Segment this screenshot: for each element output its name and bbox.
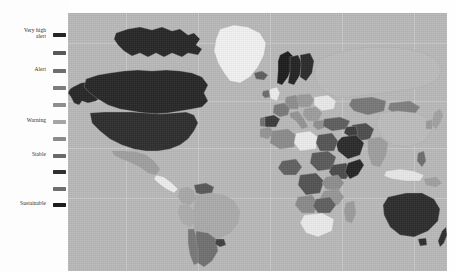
legend-item-warning: Warning: [0, 117, 68, 131]
region-somalia[interactable]: [345, 159, 364, 179]
region-colombia[interactable]: [178, 187, 196, 205]
legend-label-very-high-alert: Very high alert: [0, 27, 46, 39]
region-ireland[interactable]: [262, 90, 270, 98]
legend-swatch-10: [53, 187, 66, 190]
region-dr-congo[interactable]: [298, 173, 324, 195]
legend-swatch-4: [53, 86, 66, 89]
region-tasmania[interactable]: [418, 238, 427, 246]
legend-swatch-2: [53, 51, 66, 54]
region-papua-new-guinea[interactable]: [424, 177, 442, 187]
region-sweden[interactable]: [288, 55, 302, 85]
world-map-countries: [68, 13, 447, 271]
region-libya[interactable]: [294, 131, 318, 151]
legend-item-10: [0, 184, 68, 198]
legend-swatch-sustainable: [53, 203, 66, 206]
legend-label-line2: alert: [36, 33, 46, 39]
region-kazakhstan[interactable]: [349, 97, 386, 115]
region-new-zealand[interactable]: [438, 227, 447, 247]
region-canada-arctic[interactable]: [114, 27, 202, 57]
region-uk[interactable]: [268, 87, 280, 101]
legend-item-very-high-alert: Very high alert: [0, 30, 68, 44]
region-central-america[interactable]: [154, 175, 178, 193]
legend-swatch-7: [53, 137, 66, 140]
legend-swatch-9: [53, 170, 66, 173]
legend-item-stable: Stable: [0, 151, 68, 165]
region-finland[interactable]: [300, 53, 314, 81]
legend-swatch-stable: [53, 154, 66, 157]
region-australia[interactable]: [383, 193, 440, 237]
region-india[interactable]: [368, 137, 388, 167]
legend-swatch-alert: [53, 69, 66, 72]
alert-level-legend: Very high alert Alert Warning Stable: [0, 0, 68, 272]
legend-item-9: [0, 167, 68, 181]
legend-item-7: [0, 134, 68, 148]
region-south-africa[interactable]: [300, 213, 334, 237]
legend-label-alert: Alert: [0, 66, 46, 72]
region-korea[interactable]: [426, 120, 432, 129]
region-united-states[interactable]: [90, 112, 198, 151]
region-russia[interactable]: [314, 47, 442, 97]
region-portugal[interactable]: [260, 117, 265, 127]
legend-item-4: [0, 83, 68, 97]
legend-item-2: [0, 48, 68, 62]
region-indonesia[interactable]: [384, 169, 424, 181]
legend-swatch-5: [53, 103, 66, 106]
region-peru[interactable]: [178, 205, 196, 227]
region-algeria[interactable]: [270, 129, 296, 149]
legend-label-warning: Warning: [0, 117, 46, 123]
legend-swatch-very-high-alert: [53, 33, 66, 36]
region-egypt[interactable]: [316, 133, 338, 151]
region-nigeria[interactable]: [278, 159, 302, 175]
legend-label-stable: Stable: [0, 151, 46, 157]
region-iceland[interactable]: [254, 71, 268, 80]
region-philippines[interactable]: [417, 151, 426, 167]
region-mexico[interactable]: [112, 151, 160, 175]
region-japan[interactable]: [432, 109, 443, 129]
figure-root: Very high alert Alert Warning Stable: [0, 0, 455, 272]
legend-item-5: [0, 100, 68, 114]
region-saudi-arabia[interactable]: [336, 135, 364, 159]
legend-swatch-warning: [53, 120, 66, 123]
region-poland[interactable]: [297, 94, 314, 107]
region-balkans[interactable]: [303, 107, 322, 121]
legend-item-alert: Alert: [0, 66, 68, 80]
legend-item-sustainable: Sustainable: [0, 200, 68, 214]
legend-label-sustainable: Sustainable: [0, 200, 46, 206]
region-canada[interactable]: [84, 70, 208, 114]
world-map-panel: [68, 13, 447, 271]
region-madagascar[interactable]: [344, 201, 356, 223]
